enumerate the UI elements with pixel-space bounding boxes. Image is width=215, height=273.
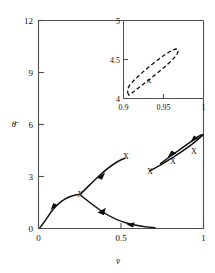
x-markers: X X X X X bbox=[78, 147, 198, 199]
x-tick-label-0-5: 0.5 bbox=[115, 233, 127, 243]
y-tick-label-12: 12 bbox=[24, 16, 33, 26]
inset-y-tick-label-4-5: 4.5 bbox=[110, 56, 120, 65]
x-axis-title: v̄ bbox=[116, 256, 120, 266]
inset-y-tick-label-5: 5 bbox=[116, 17, 120, 26]
phase-plane-chart: 0 3 6 9 12 0 0.5 1 θ̄ v̄ bbox=[0, 0, 215, 273]
inset-x-tick-label-0-95: 0.95 bbox=[157, 103, 171, 112]
x-marker-right-upper: X bbox=[191, 147, 197, 156]
flow-arrows bbox=[51, 136, 199, 228]
x-tick-label-0: 0 bbox=[36, 233, 41, 243]
curve-lower-decaying bbox=[81, 196, 155, 228]
y-tick-label-6: 6 bbox=[29, 120, 34, 130]
y-axis-title: θ̄ bbox=[12, 119, 19, 129]
x-tickmarks bbox=[39, 223, 204, 229]
x-marker-upper-left: X bbox=[123, 152, 129, 161]
y-tick-label-3: 3 bbox=[29, 172, 34, 182]
curve-loop-tip bbox=[202, 135, 203, 136]
inset-axes: 4 4.5 5 0.9 0.95 1 X bbox=[110, 17, 206, 112]
figure-container: 0 3 6 9 12 0 0.5 1 θ̄ v̄ bbox=[0, 0, 215, 273]
curve-lower-left-rising bbox=[40, 194, 80, 227]
x-marker-right-lower: X bbox=[147, 167, 153, 176]
y-tick-label-9: 9 bbox=[29, 68, 34, 78]
inset-x-tick-label-1: 1 bbox=[202, 103, 206, 112]
x-tick-label-1: 1 bbox=[201, 233, 206, 243]
x-marker-saddle: X bbox=[78, 190, 84, 199]
y-tickmarks bbox=[39, 21, 45, 229]
inset-background bbox=[123, 20, 204, 99]
x-marker-right-middle: X bbox=[170, 157, 176, 166]
inset-x-marker: X bbox=[146, 77, 151, 85]
y-tick-label-0: 0 bbox=[29, 224, 34, 234]
inset-x-tick-label-0-9: 0.9 bbox=[119, 103, 129, 112]
